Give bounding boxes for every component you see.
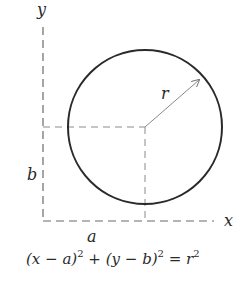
center-x-label: a [87, 227, 97, 246]
eq-part-1: (x − a) [26, 250, 77, 268]
center-y-label: b [27, 165, 37, 184]
x-axis-label: x [224, 211, 233, 230]
eq-exp-3: 2 [193, 248, 199, 259]
circle-equation-diagram: y x r b a (x − a)2 + (y − b)2 = r2 [0, 0, 249, 281]
radius-label: r [161, 84, 170, 103]
radius-arrow [145, 80, 199, 127]
circle-equation: (x − a)2 + (y − b)2 = r2 [26, 248, 200, 268]
eq-part-2: + (y − b) [84, 250, 158, 268]
y-axis-label: y [36, 0, 47, 19]
eq-part-3: = r [164, 250, 194, 268]
